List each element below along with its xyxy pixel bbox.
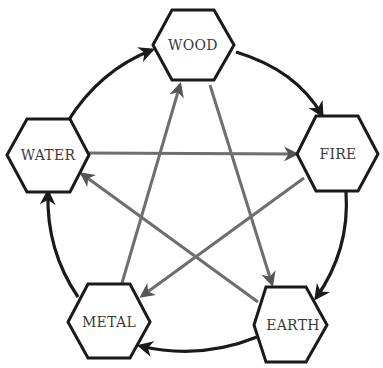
node-label-water: WATER [21,147,76,163]
node-label-metal: METAL [82,314,136,330]
node-earth: EARTH [254,287,327,362]
arrow-water-to-wood [68,50,152,121]
arrow-fire-to-earth [316,192,346,298]
node-label-wood: WOOD [168,37,218,53]
node-metal: METAL [68,284,150,358]
node-wood: WOOD [153,10,234,80]
five-elements-diagram: WOOD FIRE EARTH METAL WATER [0,0,383,368]
arrow-metal-to-water [48,192,78,297]
node-label-earth: EARTH [266,317,320,333]
node-fire: FIRE [297,116,378,191]
arrow-wood-to-fire [236,52,322,115]
arrow-water-to-fire [88,153,296,154]
arrow-metal-to-wood [122,85,180,283]
arrow-earth-to-metal [140,337,257,351]
node-water: WATER [7,119,89,192]
arrow-wood-to-earth [210,85,272,284]
node-label-fire: FIRE [319,146,356,162]
controlling-cycle [82,85,304,302]
